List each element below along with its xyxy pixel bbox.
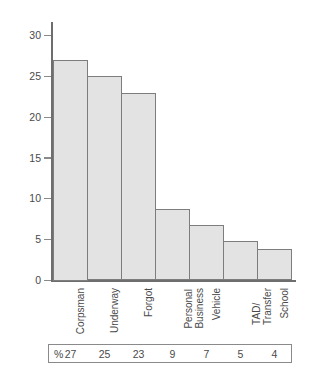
bar	[53, 60, 88, 281]
x-category-label: School	[279, 288, 290, 319]
value-table-cell: 4	[263, 348, 287, 360]
x-category-label: Forgot	[143, 288, 154, 317]
x-category-label: Corpsman	[75, 288, 86, 334]
value-table-cell: 5	[229, 348, 253, 360]
bar	[189, 225, 224, 281]
value-table-cell: 27	[59, 348, 83, 360]
x-category-label: Underway	[109, 288, 120, 333]
bar	[121, 93, 156, 281]
bar	[87, 76, 122, 280]
x-category-label: PersonalBusiness	[183, 288, 205, 329]
value-table: % 2725239754	[48, 344, 292, 363]
bar	[155, 209, 190, 281]
x-category-label: Vehicle	[211, 288, 222, 320]
value-table-cell: 9	[161, 348, 185, 360]
x-category-label: TAD/Transfer	[251, 288, 273, 325]
bar	[223, 241, 258, 280]
value-table-cell: 7	[195, 348, 219, 360]
bar	[257, 249, 292, 280]
bar-chart: 051015202530 CorpsmanUnderwayForgotPerso…	[0, 0, 330, 385]
value-table-cell: 25	[93, 348, 117, 360]
bar-series	[0, 0, 330, 385]
value-table-cell: 23	[127, 348, 151, 360]
